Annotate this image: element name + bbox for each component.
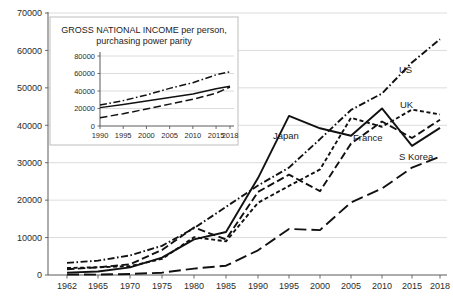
- x-tick-label: 1980: [184, 281, 204, 291]
- y-tick-label: 50000: [17, 83, 42, 93]
- x-tick-label: 2015: [402, 281, 422, 291]
- x-tick-label: 2010: [372, 281, 392, 291]
- series-label-japan: Japan: [273, 130, 299, 141]
- inset-x-tick-label: 2005: [161, 131, 178, 140]
- y-axis-tick-labels: 010000200003000040000500006000070000: [17, 8, 42, 280]
- x-tick-label: 1975: [152, 281, 172, 291]
- inset-y-tick-label: 60000: [74, 69, 95, 78]
- inset-y-tick-label: 0: [91, 122, 95, 131]
- inset-x-tick-label: 1990: [92, 131, 109, 140]
- inset-x-tick-label: 2018: [222, 131, 239, 140]
- y-tick-label: 10000: [17, 233, 42, 243]
- x-tick-label: 2000: [310, 281, 330, 291]
- series-labels: JapanUSUKFranceS Korea: [273, 64, 434, 162]
- x-tick-label: 1970: [120, 281, 140, 291]
- y-tick-label: 20000: [17, 195, 42, 205]
- inset-y-tick-label: 20000: [74, 104, 95, 113]
- x-tick-label: 1995: [279, 281, 299, 291]
- inset-x-tick-label: 2000: [138, 131, 155, 140]
- inset-y-tick-label: 40000: [74, 87, 95, 96]
- inset-y-tick-label: 80000: [74, 52, 95, 61]
- inset-title-line-1: GROSS NATIONAL INCOME per person,: [61, 25, 227, 35]
- y-tick-label: 30000: [17, 158, 42, 168]
- series-label-s-korea: S Korea: [399, 151, 434, 162]
- inset-x-tick-label: 2010: [185, 131, 202, 140]
- chart-figure: 010000200003000040000500006000070000 196…: [0, 0, 453, 304]
- y-tick-label: 60000: [17, 46, 42, 56]
- inset-chart: GROSS NATIONAL INCOME per person,purchas…: [50, 17, 238, 145]
- x-axis-tick-labels: 1962196519701975198019851990199520002005…: [57, 281, 450, 291]
- series-label-france: France: [353, 132, 383, 143]
- inset-x-tick-label: 1995: [115, 131, 132, 140]
- y-tick-label: 40000: [17, 121, 42, 131]
- line-chart-canvas: 010000200003000040000500006000070000 196…: [0, 0, 453, 304]
- y-tick-label: 0: [37, 270, 42, 280]
- series-label-us: US: [399, 64, 412, 75]
- series-label-uk: UK: [400, 99, 414, 110]
- x-tick-label: 2005: [341, 281, 361, 291]
- x-tick-label: 2018: [430, 281, 450, 291]
- x-tick-label: 1962: [57, 281, 77, 291]
- x-tick-label: 1990: [248, 281, 268, 291]
- x-tick-label: 1965: [88, 281, 108, 291]
- x-tick-label: 1985: [216, 281, 236, 291]
- y-tick-label: 70000: [17, 8, 42, 18]
- inset-title-line-2: purchasing power parity: [96, 36, 192, 46]
